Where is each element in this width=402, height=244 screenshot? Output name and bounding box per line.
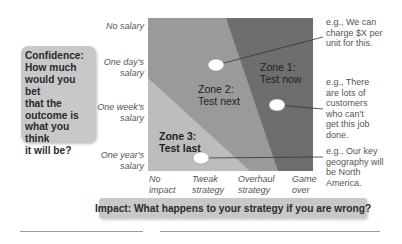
callout-line: unit for this. — [326, 38, 402, 49]
x-axis-title-box: Impact: What happens to your strategy if… — [99, 198, 367, 218]
x-tick-line: strategy — [238, 185, 275, 196]
callout-line: be North — [326, 167, 402, 178]
y-axis-title-line: that the — [25, 98, 93, 110]
x-axis-title: Impact: What happens to your strategy if… — [95, 203, 371, 214]
x-tick-line: over — [292, 185, 317, 196]
y-axis-title-line: How much — [25, 62, 93, 74]
callout-line: e.g., There — [326, 77, 402, 88]
y-axis-title-box: Confidence: How much would you bet that … — [21, 46, 96, 142]
y-tick-one-year: One year's salary — [101, 150, 144, 171]
callout-line: e.g., We can — [326, 17, 402, 28]
x-tick-line: impact — [149, 185, 176, 196]
x-tick-line: No — [149, 174, 176, 185]
example-dot-2 — [269, 99, 285, 111]
callout-line: get this job — [326, 119, 402, 130]
y-axis-title-line: outcome is — [25, 110, 93, 122]
y-tick-line: salary — [104, 68, 144, 79]
callout-line: charge $X per — [326, 28, 402, 39]
callout-line: geography will — [326, 157, 402, 168]
example-dot-1 — [208, 59, 224, 71]
callout-line: who can't — [326, 109, 402, 120]
zone-1-subtitle: Test now — [260, 73, 301, 85]
zone-2-title: Zone 2: — [198, 83, 240, 95]
y-axis-title-line: would you bet — [25, 74, 93, 98]
y-tick-line: salary — [101, 161, 144, 172]
y-tick-line: No salary — [106, 21, 144, 32]
x-tick-no-impact: No impact — [149, 174, 176, 195]
zone-3-subtitle: Test last — [159, 142, 201, 154]
x-tick-game-over: Game over — [292, 174, 317, 195]
callout-line: customers — [326, 98, 402, 109]
x-tick-line: Game — [292, 174, 317, 185]
zone-1-label: Zone 1: Test now — [260, 61, 301, 85]
callout-2: e.g., There are lots of customers who ca… — [326, 77, 402, 141]
x-tick-overhaul: Overhaul strategy — [238, 174, 275, 195]
callout-line: America. — [326, 178, 402, 189]
callout-3: e.g., Our key geography will be North Am… — [326, 146, 402, 188]
zone-2-subtitle: Test next — [198, 95, 240, 107]
y-axis-title-line: it will be? — [25, 145, 93, 157]
zone-3-label: Zone 3: Test last — [159, 130, 201, 154]
zone-1-title: Zone 1: — [260, 61, 301, 73]
y-tick-line: One year's — [101, 150, 144, 161]
callout-line: e.g., Our key — [326, 146, 402, 157]
y-tick-one-week: One week's salary — [97, 102, 144, 123]
x-tick-line: Overhaul — [238, 174, 275, 185]
y-axis-title-line: Confidence: — [25, 50, 93, 62]
y-tick-line: One day's — [104, 57, 144, 68]
callout-line: done. — [326, 130, 402, 141]
y-axis-title-line: what you think — [25, 121, 93, 145]
zone-2-label: Zone 2: Test next — [198, 83, 240, 107]
x-tick-tweak: Tweak strategy — [192, 174, 224, 195]
callout-1: e.g., We can charge $X per unit for this… — [326, 17, 402, 49]
x-tick-line: Tweak — [192, 174, 224, 185]
y-tick-one-day: One day's salary — [104, 57, 144, 78]
callout-line: are lots of — [326, 88, 402, 99]
x-tick-line: strategy — [192, 185, 224, 196]
divider-left — [20, 231, 143, 232]
y-tick-line: One week's — [97, 102, 144, 113]
y-tick-no-salary: No salary — [106, 21, 144, 32]
divider-right — [160, 231, 380, 232]
y-tick-line: salary — [97, 113, 144, 124]
zone-3-title: Zone 3: — [159, 130, 201, 142]
